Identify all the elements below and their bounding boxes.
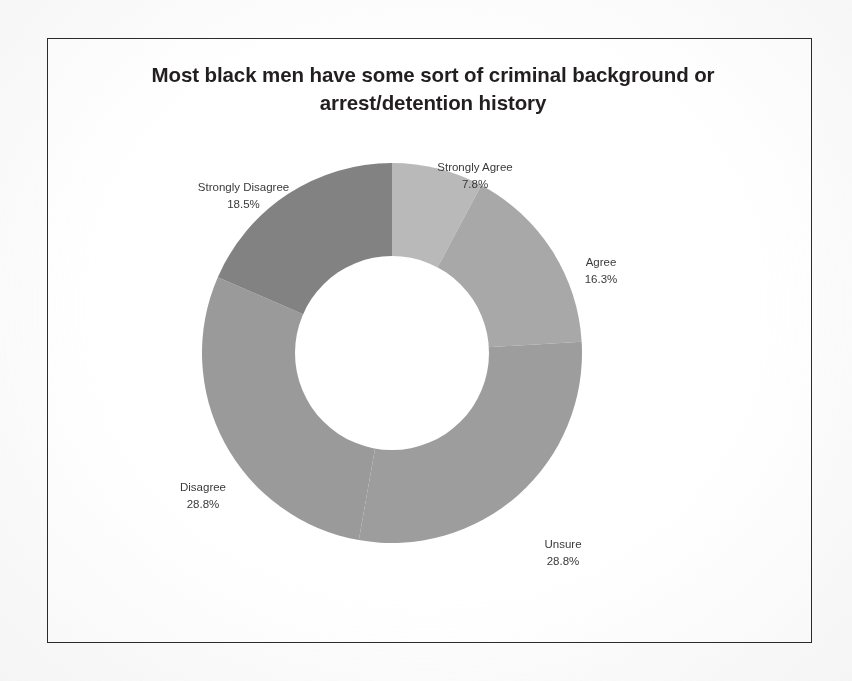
slice-label-value: 16.3% xyxy=(546,271,656,288)
slice-label-value: 28.8% xyxy=(508,553,618,570)
donut-hole xyxy=(295,256,489,450)
slice-label-name: Disagree xyxy=(138,479,268,496)
slice-label-name: Strongly Disagree xyxy=(156,179,331,196)
slice-label-name: Unsure xyxy=(508,536,618,553)
slice-label-unsure: Unsure 28.8% xyxy=(508,536,618,569)
slice-label-agree: Agree 16.3% xyxy=(546,254,656,287)
slice-label-strongly-agree: Strongly Agree 7.8% xyxy=(400,159,550,192)
slice-label-value: 18.5% xyxy=(156,196,331,213)
slice-label-disagree: Disagree 28.8% xyxy=(138,479,268,512)
chart-frame: Most black men have some sort of crimina… xyxy=(47,38,812,643)
slice-label-value: 7.8% xyxy=(400,176,550,193)
slice-label-name: Agree xyxy=(546,254,656,271)
slice-label-value: 28.8% xyxy=(138,496,268,513)
donut-chart: Strongly Agree 7.8% Agree 16.3% Unsure 2… xyxy=(48,39,813,644)
slice-label-strongly-disagree: Strongly Disagree 18.5% xyxy=(156,179,331,212)
slice-label-name: Strongly Agree xyxy=(400,159,550,176)
screenshot-page: Most black men have some sort of crimina… xyxy=(0,0,852,681)
